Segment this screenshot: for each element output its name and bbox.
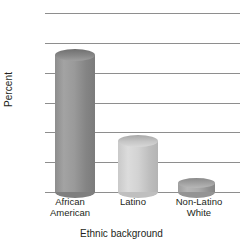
x-tick-label-line-1: Latino [103,196,163,207]
plot-area: 30 25 20 15 10 5 0 [45,13,240,192]
gridline-row-30: 30 [45,13,240,14]
y-axis-title: Percent [3,60,14,120]
bar-top-cap [118,135,158,147]
x-tick-label-latino: Latino [103,196,163,207]
bar-latino [118,135,158,192]
bar-chart: Percent 30 25 20 15 10 5 0 [0,0,243,249]
x-tick-label-line-2: American [35,207,105,218]
x-tick-label-line-1: African [35,196,105,207]
x-tick-label-african-american: African American [35,196,105,218]
x-tick-label-line-2: White [160,207,238,218]
bar-top-cap [178,178,215,188]
x-tick-label-non-latino-white: Non-Latino White [160,196,238,218]
x-axis-title: Ethnic background [0,228,243,239]
gridline-row-25: 25 [45,43,240,44]
x-tick-label-line-1: Non-Latino [160,196,238,207]
bar-african-american [55,49,95,192]
bar-top-cap [55,49,95,61]
bar-non-latino-white [178,178,215,192]
gridline [45,43,240,44]
bar-body [118,141,158,192]
gridline [45,13,240,14]
bar-body [55,55,95,192]
